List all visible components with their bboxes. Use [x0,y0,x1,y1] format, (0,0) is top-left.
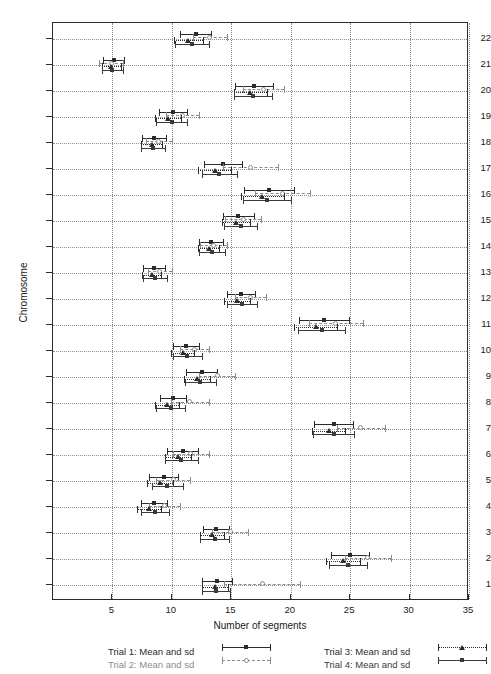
series-marker [151,146,155,150]
series-marker [210,250,214,254]
error-bar-cap [173,343,174,350]
error-bar-cap [222,219,223,226]
error-bar-cap [241,193,242,200]
series-marker [322,318,326,322]
y-tick-label: 15 [447,215,491,225]
y-tick-mark [46,402,52,403]
series-marker [181,449,185,453]
y-tick-mark [46,454,52,455]
error-bar-cap [313,431,314,438]
error-bar-cap [257,301,258,308]
series-marker [185,354,189,358]
gridline-vertical [469,23,470,599]
x-tick-label: 5 [96,604,126,615]
error-bar-cap [224,223,225,230]
series-marker [146,506,152,511]
error-bar-cap [171,350,172,357]
error-bar-cap [198,167,199,174]
error-bar-cap [99,60,100,67]
x-tick-mark [468,594,469,600]
legend-item[interactable]: Trial 3: Mean and sd [324,641,410,654]
x-tick-label: 20 [275,604,305,615]
series-marker [313,324,319,329]
legend-key-cap [222,657,223,664]
error-bar-cap [143,275,144,282]
x-tick-label: 15 [215,604,245,615]
error-bar-cap [143,265,144,272]
error-bar-cap [180,31,181,38]
y-axis-label: Chromosome [18,233,29,353]
series-marker [165,484,169,488]
y-tick-mark [46,558,52,559]
y-tick-mark [46,428,52,429]
y-tick-label: 19 [447,111,491,121]
y-tick-mark [46,246,52,247]
x-tick-mark [409,594,410,600]
series-marker [110,68,114,72]
error-bar-cap [185,405,186,412]
error-bar-cap [329,562,330,569]
series-marker [265,198,269,202]
error-bar-cap [363,320,364,327]
gridline-horizontal [53,221,467,222]
error-bar-cap [180,503,181,510]
gridline-vertical [112,23,113,599]
legend-column-right: Trial 3: Mean and sdTrial 4: Mean and sd [324,641,410,667]
x-tick-mark [171,594,172,600]
error-bar-cap [172,138,173,145]
y-tick-mark [46,64,52,65]
error-bar-cap [294,324,295,331]
series-marker [252,84,256,88]
error-bar-cap [216,379,217,386]
error-bar-cap [237,171,238,178]
gridline-horizontal [53,585,467,586]
error-bar-cap [223,213,224,220]
error-bar-cap [141,145,142,152]
legend-key-marker [244,645,248,649]
error-bar-cap [165,145,166,152]
y-tick-label: 9 [447,371,491,381]
legend-key-cap [270,657,271,664]
error-bar-cap [159,109,160,116]
y-tick-label: 12 [447,293,491,303]
y-tick-mark [46,324,52,325]
gridline-horizontal [53,247,467,248]
series-marker [236,214,240,218]
legend-item[interactable]: Trial 2: Mean and sd [108,654,194,667]
error-bar-cap [367,562,368,569]
series-marker [169,406,173,410]
y-tick-label: 13 [447,267,491,277]
error-bar-cap [147,480,148,487]
plot-area [52,22,468,600]
y-tick-label: 4 [447,501,491,511]
error-bar-cap [298,327,299,334]
error-bar-cap [209,41,210,48]
series-marker [261,87,266,92]
error-bar-cap [203,526,204,533]
y-tick-label: 17 [447,163,491,173]
error-bar-cap [190,477,191,484]
error-bar-cap [272,93,273,100]
legend-item[interactable]: Trial 4: Mean and sd [324,654,410,667]
error-bar-cap [165,457,166,464]
legend-item[interactable]: Trial 1: Mean and sd [108,641,194,654]
gridline-horizontal [53,377,467,378]
series-marker [214,527,218,531]
y-tick-label: 6 [447,449,491,459]
error-bar-cap [243,197,244,204]
gridline-horizontal [53,559,467,560]
gridline-horizontal [53,299,467,300]
gridline-horizontal [53,455,467,456]
gridline-vertical [410,23,411,599]
legend-key-cap [486,644,487,651]
series-marker [156,139,161,144]
x-tick-label: 25 [334,604,364,615]
error-bar-cap [227,301,228,308]
error-bar-cap [187,119,188,126]
gridline-horizontal [53,481,467,482]
gridline-vertical [231,23,232,599]
gridline-horizontal [53,39,467,40]
series-marker [332,432,336,436]
error-bar-cap [385,425,386,432]
series-marker [214,589,218,593]
